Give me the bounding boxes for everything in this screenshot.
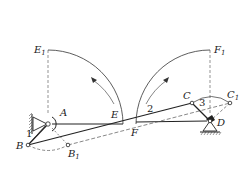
arrow-arc-right bbox=[146, 80, 167, 104]
arc-c-c1 bbox=[192, 97, 230, 104]
joint-b bbox=[26, 143, 30, 147]
label-b1: B1 bbox=[67, 148, 80, 161]
label-a: A bbox=[59, 107, 67, 118]
label-b: B bbox=[15, 140, 23, 151]
link-fd-base bbox=[136, 121, 207, 122]
joint-b1 bbox=[66, 143, 70, 147]
arc-b-b1 bbox=[28, 145, 68, 151]
label-f: F bbox=[130, 127, 139, 138]
joint-c bbox=[190, 101, 194, 105]
label-link-1: 1 bbox=[26, 128, 32, 139]
label-f1: F1 bbox=[213, 44, 225, 57]
joint-c1 bbox=[228, 101, 232, 105]
linkage-diagram: E1 F1 A E F B B1 C C1 D 1 2 3 bbox=[0, 0, 250, 169]
label-d: D bbox=[216, 117, 225, 128]
label-link-2: 2 bbox=[147, 103, 153, 114]
label-e: E bbox=[110, 109, 119, 120]
label-link-3: 3 bbox=[199, 97, 205, 108]
label-e1: E1 bbox=[33, 44, 46, 57]
label-c: C bbox=[183, 90, 191, 101]
label-c1: C1 bbox=[227, 89, 239, 102]
